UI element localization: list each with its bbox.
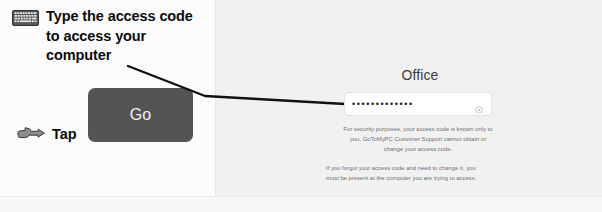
keyboard-icon	[12, 10, 39, 26]
access-code-masked-value: •••••••••••••	[352, 100, 414, 109]
forgot-code-help-line-1: If you forgot your access code and need …	[326, 163, 516, 173]
access-code-input[interactable]: •••••••••••••	[345, 93, 491, 115]
instruction-text: Type the access code to access your comp…	[46, 7, 216, 66]
instruction-line-1: Type the access code	[46, 7, 216, 27]
go-button-label: Go	[130, 107, 151, 123]
security-help-line-2: you. GoToMyPC Customer Support cannot ob…	[325, 134, 511, 144]
forgot-code-help-text: If you forgot your access code and need …	[326, 163, 516, 183]
go-button[interactable]: Go	[88, 88, 193, 142]
page-title: Office	[330, 67, 510, 83]
pointing-hand-icon	[16, 126, 46, 142]
forgot-code-help-line-2: must be present at the computer you are …	[326, 173, 516, 183]
bottom-strip	[0, 196, 602, 212]
instruction-line-3: computer	[46, 46, 216, 66]
security-help-line-3: change your access code.	[325, 144, 511, 154]
security-help-text: For security purposes, your access code …	[325, 124, 511, 154]
clear-circle-icon[interactable]	[475, 100, 483, 108]
tap-label: Tap	[52, 126, 76, 142]
instruction-line-2: to access your	[46, 27, 216, 47]
security-help-line-1: For security purposes, your access code …	[325, 124, 511, 134]
bottom-rule	[0, 196, 602, 197]
screenshot-canvas: Type the access code to access your comp…	[0, 0, 602, 212]
